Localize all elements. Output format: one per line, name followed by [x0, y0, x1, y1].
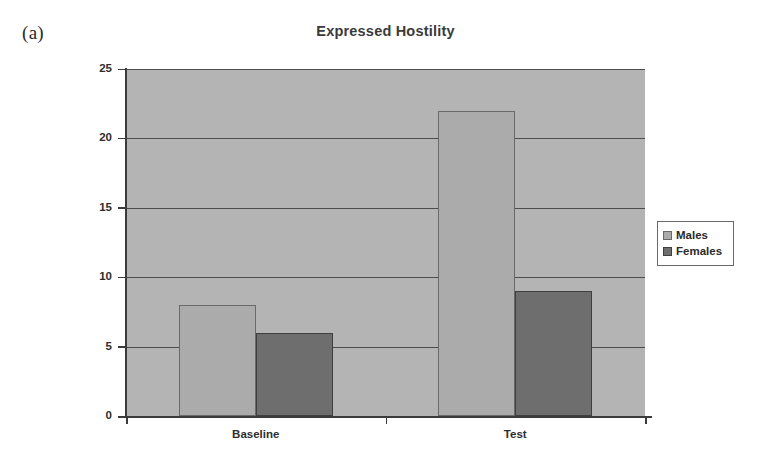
x-axis-edge-tick: [126, 417, 128, 424]
chart-legend: MalesFemales: [657, 221, 734, 266]
y-axis-tick-label: 0: [78, 409, 112, 423]
legend-swatch-icon: [663, 231, 672, 240]
x-axis-category-label: Test: [504, 428, 527, 440]
bar-test-females: [515, 291, 592, 416]
legend-label: Males: [676, 230, 708, 242]
y-axis-tick: [118, 138, 126, 140]
legend-item-males: Males: [663, 228, 729, 243]
gridline: [126, 277, 645, 278]
y-axis-tick: [118, 277, 126, 279]
y-axis-tick-label-text: 25: [78, 62, 112, 74]
bar-baseline-males: [179, 305, 256, 416]
y-axis-tick-label: 20: [78, 131, 112, 145]
gridline: [126, 69, 645, 70]
x-axis-edge-tick: [645, 417, 647, 424]
x-axis-tick: [386, 417, 388, 424]
y-axis-tick: [118, 69, 126, 71]
y-axis-tick-label: 15: [78, 201, 112, 215]
legend-item-females: Females: [663, 244, 729, 259]
y-axis-tick: [118, 416, 126, 418]
legend-swatch-icon: [663, 247, 672, 256]
legend-label: Females: [676, 246, 722, 258]
bar-chart: Expressed Hostility 0510152025BaselineTe…: [0, 0, 762, 468]
y-axis-tick-label-text: 5: [78, 340, 112, 352]
y-axis-tick-label-text: 20: [78, 131, 112, 143]
bar-test-males: [438, 111, 515, 416]
y-axis-tick-label: 5: [78, 340, 112, 354]
y-axis-tick-label: 10: [78, 270, 112, 284]
y-axis-tick: [118, 346, 126, 348]
x-axis-category-label: Baseline: [232, 428, 279, 440]
y-axis-tick-label-text: 10: [78, 270, 112, 282]
gridline: [126, 208, 645, 209]
chart-title: Expressed Hostility: [126, 23, 645, 39]
y-axis-tick-label-text: 15: [78, 201, 112, 213]
y-axis-line: [125, 68, 127, 417]
gridline: [126, 138, 645, 139]
y-axis-tick-label-text: 0: [78, 409, 112, 421]
bar-baseline-females: [256, 333, 333, 416]
y-axis-tick: [118, 207, 126, 209]
y-axis-tick-label: 25: [78, 62, 112, 76]
